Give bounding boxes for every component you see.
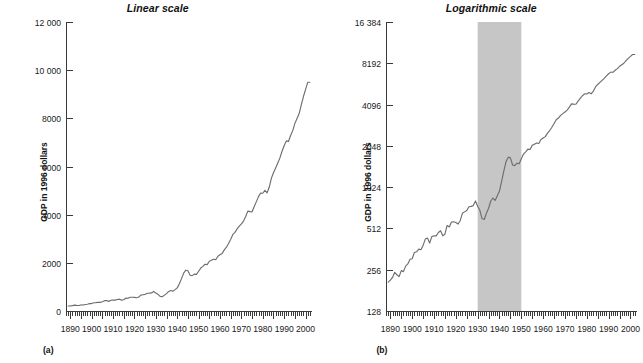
y-axis-tick-label: 2000	[42, 259, 61, 269]
x-axis-tick-label: 2000	[620, 324, 639, 334]
y-axis-tick-label: 512	[366, 224, 381, 234]
y-axis-tick-label: 8000	[42, 114, 61, 124]
x-axis-tick-label: 1960	[210, 324, 229, 334]
x-axis-tick-label: 1980	[253, 324, 272, 334]
y-axis-tick-label: 4000	[42, 211, 61, 221]
panel-letter-a: (a)	[43, 345, 54, 355]
x-axis-tick-label: 1920	[125, 324, 144, 334]
x-axis-tick-label: 1950	[189, 324, 208, 334]
x-axis-tick-label: 1990	[599, 324, 618, 334]
y-axis-tick-label: 10 000	[35, 66, 62, 76]
x-axis-tick-label: 1940	[168, 324, 187, 334]
y-axis-tick-label: 128	[366, 307, 381, 317]
gdp-series-line	[68, 82, 310, 306]
panel-letter-b: (b)	[377, 345, 388, 355]
x-axis-tick-label: 1910	[424, 324, 443, 334]
x-axis-tick-label: 1980	[577, 324, 596, 334]
y-axis-tick-label: 16 384	[354, 18, 381, 28]
x-axis-tick-label: 1930	[146, 324, 165, 334]
panel-log-scale: Logarithmic scale GDP in 1996 dollars 16…	[322, 0, 643, 363]
x-axis-tick-label: 1930	[468, 324, 487, 334]
y-axis-tick-label: 1024	[361, 183, 380, 193]
x-axis-tick-label: 1900	[82, 324, 101, 334]
plot-area-linear: 12 00010 0008000600040002000018901900191…	[0, 0, 322, 363]
y-axis-tick-label: 12 000	[35, 18, 62, 28]
x-axis-tick-label: 1890	[61, 324, 80, 334]
plot-area-log: 16 3848192409620481024512256128189019001…	[322, 0, 643, 363]
x-axis-tick-label: 1950	[511, 324, 530, 334]
shaded-region-depression-war	[477, 22, 521, 311]
y-axis-tick-label: 8192	[361, 59, 380, 69]
x-axis-tick-label: 2000	[296, 324, 315, 334]
x-axis-tick-label: 1900	[402, 324, 421, 334]
x-axis-tick-label: 1910	[103, 324, 122, 334]
x-axis-tick-label: 1960	[533, 324, 552, 334]
x-axis-tick-label: 1890	[380, 324, 399, 334]
x-axis-tick-label: 1990	[275, 324, 294, 334]
y-axis-tick-label: 0	[56, 307, 61, 317]
y-axis-tick-label: 2048	[361, 142, 380, 152]
x-axis-tick-label: 1940	[489, 324, 508, 334]
x-axis-tick-label: 1970	[232, 324, 251, 334]
y-axis-tick-label: 256	[366, 266, 381, 276]
x-axis-tick-label: 1970	[555, 324, 574, 334]
y-axis-tick-label: 6000	[42, 163, 61, 173]
figure-two-panel-gdp: Linear scale GDP in 1996 dollars 12 0001…	[0, 0, 643, 363]
panel-linear-scale: Linear scale GDP in 1996 dollars 12 0001…	[0, 0, 322, 363]
y-axis-tick-label: 4096	[361, 101, 380, 111]
x-axis-tick-label: 1920	[446, 324, 465, 334]
